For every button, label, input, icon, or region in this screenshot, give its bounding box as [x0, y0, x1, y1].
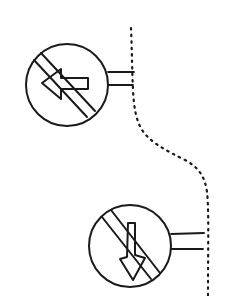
sign-circle: [26, 44, 108, 126]
diagram-canvas: [0, 0, 227, 296]
prohibition-slash: [102, 210, 160, 279]
sign-no-down-arrow: [89, 205, 204, 287]
sign-post: [108, 72, 134, 85]
sign-no-left-turn: [26, 44, 134, 126]
sign-post: [171, 233, 204, 249]
down-arrow-icon: [120, 223, 145, 280]
